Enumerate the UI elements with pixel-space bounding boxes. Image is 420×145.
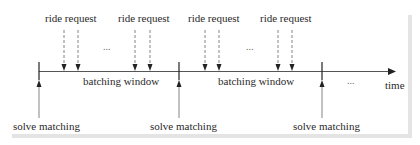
solve-matching-marker-1 bbox=[37, 62, 42, 118]
time-axis-label: time bbox=[385, 79, 405, 91]
solve-matching-marker-3 bbox=[320, 62, 325, 118]
ride-request-label-2: ride request bbox=[118, 12, 170, 24]
batching-window-label-2: batching window bbox=[218, 75, 294, 87]
ride-request-label-1: ride request bbox=[45, 12, 97, 24]
solve-matching-label-3: solve matching bbox=[293, 120, 360, 132]
batching-window-label-1: batching window bbox=[83, 75, 159, 87]
ellipsis-axis: ... bbox=[347, 76, 355, 86]
ride-request-arrowheads bbox=[62, 64, 295, 71]
solve-matching-label-2: solve matching bbox=[150, 120, 217, 132]
ride-request-label-3: ride request bbox=[188, 12, 240, 24]
solve-matching-label-1: solve matching bbox=[13, 120, 80, 132]
solve-matching-marker-2 bbox=[177, 62, 182, 118]
time-axis bbox=[39, 68, 396, 75]
ride-request-label-4: ride request bbox=[260, 12, 312, 24]
ellipsis-window-1: ... bbox=[103, 42, 111, 52]
ellipsis-window-2: ... bbox=[246, 42, 254, 52]
ride-request-arrows bbox=[64, 30, 292, 65]
